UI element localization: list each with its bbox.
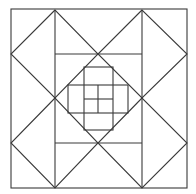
quilt-block-diagram bbox=[0, 0, 196, 194]
